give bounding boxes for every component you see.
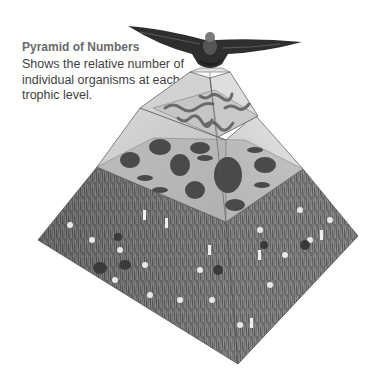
pyramid-apex <box>190 68 230 72</box>
eagle-top-carnivore <box>128 26 302 68</box>
pyramid-illustration <box>0 0 381 386</box>
